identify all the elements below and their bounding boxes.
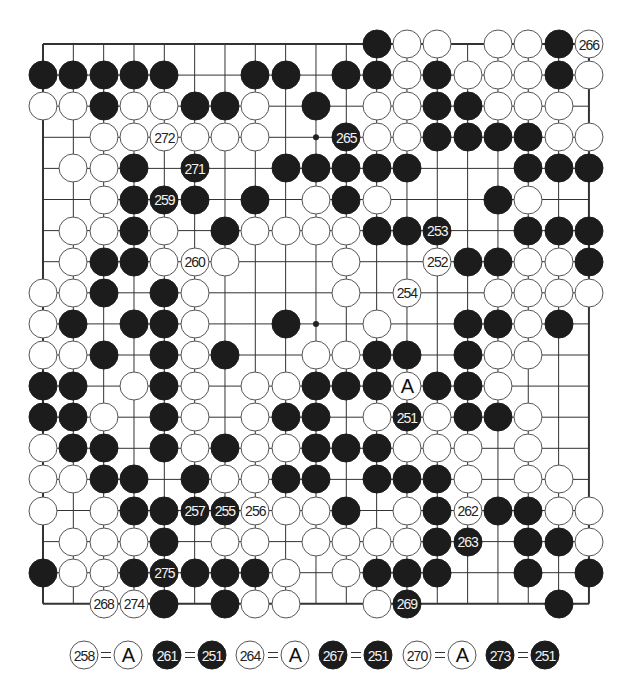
- legend-stone: 273: [486, 641, 515, 670]
- white-stone: [514, 247, 543, 276]
- black-stone: 251: [392, 403, 421, 432]
- white-stone: [392, 496, 421, 525]
- white-stone: [423, 403, 452, 432]
- black-stone: [180, 465, 209, 494]
- black-stone: [59, 403, 88, 432]
- black-stone: [483, 247, 512, 276]
- black-stone: [362, 434, 391, 463]
- white-stone: [483, 30, 512, 59]
- black-stone: [392, 341, 421, 370]
- white-stone: [514, 403, 543, 432]
- black-stone: [301, 403, 330, 432]
- white-stone: 262: [453, 496, 482, 525]
- black-stone: [271, 154, 300, 183]
- white-stone: [271, 589, 300, 618]
- white-stone: [392, 527, 421, 556]
- black-stone: [544, 216, 573, 245]
- legend-stone: A: [114, 641, 143, 670]
- black-stone: [29, 403, 58, 432]
- white-stone: [89, 496, 118, 525]
- black-stone: [210, 341, 239, 370]
- black-stone: [119, 247, 148, 276]
- white-stone: [271, 496, 300, 525]
- black-stone: [271, 61, 300, 90]
- white-stone: 274: [119, 589, 148, 618]
- black-stone: [29, 372, 58, 401]
- white-stone: [210, 123, 239, 152]
- white-stone: [59, 558, 88, 587]
- black-stone: [483, 185, 512, 214]
- black-stone: [150, 278, 179, 307]
- white-stone: [89, 185, 118, 214]
- black-stone: [241, 558, 270, 587]
- white-stone: [241, 403, 270, 432]
- white-stone: [271, 434, 300, 463]
- white-stone: [89, 558, 118, 587]
- black-stone: [514, 216, 543, 245]
- white-stone: [210, 247, 239, 276]
- black-stone: [362, 154, 391, 183]
- white-stone: 260: [180, 247, 209, 276]
- white-stone: [150, 92, 179, 121]
- white-stone: [423, 30, 452, 59]
- black-stone: [301, 372, 330, 401]
- black-stone: [483, 403, 512, 432]
- black-stone: [362, 216, 391, 245]
- white-stone: 266: [574, 30, 603, 59]
- black-stone: [423, 558, 452, 587]
- black-stone: [362, 61, 391, 90]
- white-stone: [180, 434, 209, 463]
- marker-point-A: A: [392, 372, 421, 401]
- black-stone: 263: [453, 527, 482, 556]
- black-stone: [332, 185, 361, 214]
- black-stone: [483, 123, 512, 152]
- black-stone: [59, 309, 88, 338]
- black-stone: [180, 558, 209, 587]
- white-stone: [89, 154, 118, 183]
- white-stone: [544, 278, 573, 307]
- legend-stone: 251: [364, 641, 393, 670]
- white-stone: 254: [392, 278, 421, 307]
- white-stone: [332, 341, 361, 370]
- white-stone: [514, 61, 543, 90]
- legend-stone: A: [281, 641, 310, 670]
- white-stone: [29, 496, 58, 525]
- black-stone: [514, 154, 543, 183]
- white-stone: [332, 558, 361, 587]
- black-stone: [423, 465, 452, 494]
- white-stone: [241, 589, 270, 618]
- white-stone: [453, 465, 482, 494]
- white-stone: [59, 216, 88, 245]
- black-stone: [301, 154, 330, 183]
- white-stone: [210, 527, 239, 556]
- black-stone: [150, 496, 179, 525]
- black-stone: [544, 61, 573, 90]
- black-stone: [423, 496, 452, 525]
- white-stone: [241, 216, 270, 245]
- black-stone: [89, 278, 118, 307]
- black-stone: [150, 61, 179, 90]
- white-stone: [89, 123, 118, 152]
- black-stone: [574, 216, 603, 245]
- white-stone: [210, 465, 239, 494]
- white-stone: [514, 465, 543, 494]
- white-stone: [483, 341, 512, 370]
- black-stone: [150, 309, 179, 338]
- black-stone: [423, 61, 452, 90]
- black-stone: [483, 496, 512, 525]
- black-stone: [119, 185, 148, 214]
- black-stone: [332, 496, 361, 525]
- white-stone: [119, 123, 148, 152]
- white-stone: [514, 185, 543, 214]
- white-stone: [544, 123, 573, 152]
- white-stone: [180, 278, 209, 307]
- equals-sign: [268, 652, 278, 658]
- black-stone: [423, 527, 452, 556]
- black-stone: [453, 372, 482, 401]
- black-stone: [301, 434, 330, 463]
- black-stone: [241, 61, 270, 90]
- white-stone: [453, 61, 482, 90]
- white-stone: [392, 30, 421, 59]
- white-stone: [574, 61, 603, 90]
- white-stone: [514, 30, 543, 59]
